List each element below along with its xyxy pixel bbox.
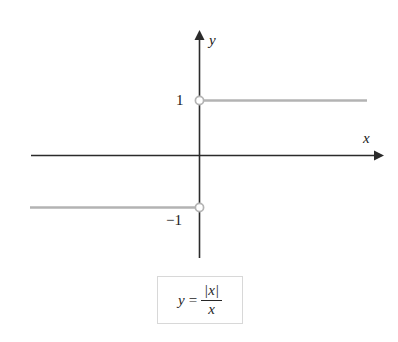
open-point-lower [195, 203, 203, 211]
formula-fraction: |x| x [201, 283, 222, 318]
x-axis [31, 151, 384, 161]
y-tick-label-positive-one: 1 [176, 93, 184, 108]
formula-equals-sign: = [188, 292, 201, 309]
y-axis-label: y [209, 33, 216, 48]
formula-numerator: |x| [201, 283, 222, 300]
formula-caption-box: y = |x| x [157, 276, 243, 324]
x-axis-arrowhead-icon [374, 151, 384, 161]
y-axis-arrowhead-icon [195, 30, 205, 40]
formula-denominator: x [205, 301, 218, 318]
y-axis [195, 30, 205, 258]
y-tick-label-negative-one: −1 [166, 213, 182, 228]
x-axis-label: x [363, 131, 370, 146]
formula-lhs: y [178, 292, 188, 309]
formula-expression: y = |x| x [178, 283, 222, 318]
open-point-upper [195, 96, 203, 104]
